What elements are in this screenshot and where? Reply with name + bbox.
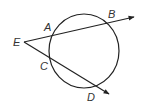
label-A: A bbox=[43, 21, 51, 33]
secant-ED bbox=[24, 42, 109, 94]
secant-diagram: E A B C D bbox=[0, 0, 143, 107]
label-E: E bbox=[13, 36, 21, 48]
label-B: B bbox=[108, 8, 115, 20]
circle bbox=[49, 14, 119, 88]
label-D: D bbox=[87, 91, 95, 103]
label-C: C bbox=[40, 60, 48, 72]
